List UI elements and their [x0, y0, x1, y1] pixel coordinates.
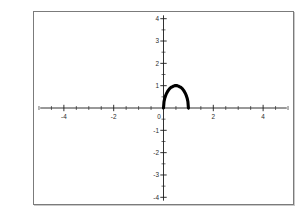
- plot-canvas: -4-2024-4-3-2-11234: [34, 12, 293, 204]
- y-tick-label: 3: [155, 37, 159, 44]
- x-tick-label: -2: [111, 113, 117, 120]
- y-tick-label: 4: [155, 15, 159, 22]
- y-tick-label: -1: [153, 127, 159, 134]
- x-tick-label: 2: [212, 113, 216, 120]
- x-tick-label: 0: [157, 113, 161, 120]
- figure-root: -4-2024-4-3-2-11234: [0, 0, 307, 212]
- y-tick-label: 1: [155, 82, 159, 89]
- x-tick-label: -4: [61, 113, 67, 120]
- y-tick-label: -4: [153, 194, 159, 201]
- plot-frame: -4-2024-4-3-2-11234: [33, 11, 294, 205]
- y-tick-label: -2: [153, 149, 159, 156]
- x-tick-label: 4: [261, 113, 265, 120]
- data-curve: [164, 86, 189, 108]
- y-tick-label: -3: [153, 171, 159, 178]
- y-tick-label: 2: [155, 60, 159, 67]
